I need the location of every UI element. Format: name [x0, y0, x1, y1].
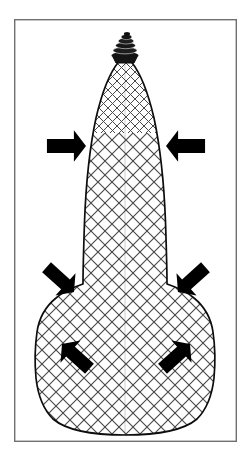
net-diagram-svg [0, 0, 251, 461]
coil-top-knot [124, 32, 130, 36]
figure-container: Fishing trawl net bag (codend) with comp… [0, 0, 251, 461]
